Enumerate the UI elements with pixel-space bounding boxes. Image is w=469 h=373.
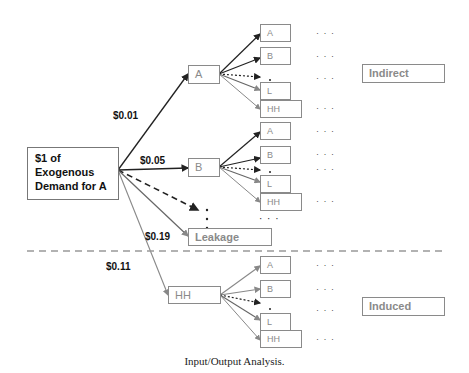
amount-hh: $0.11: [106, 261, 130, 272]
induced-label: Induced: [362, 297, 445, 316]
tier2-hh-box-a: A: [260, 256, 291, 274]
tier1-box-hh: HH: [168, 286, 221, 304]
leakage-box: Leakage: [188, 228, 272, 246]
indirect-label: Indirect: [362, 64, 445, 83]
tier2-b-box-l: L: [260, 175, 291, 193]
source-box: $1 of Exogenous Demand for A: [27, 147, 119, 200]
continuation-dots: · · ·: [316, 284, 335, 294]
tier2-b-box-b: B: [260, 146, 291, 164]
source-line-1: $1 of: [35, 151, 118, 165]
tier2-a-box-a: A: [260, 24, 291, 42]
tier2-a-box-b: B: [260, 47, 291, 65]
continuation-dots: · · ·: [316, 28, 335, 38]
source-line-2: Exogenous: [35, 165, 118, 179]
tier2-hh-box-l: L: [260, 313, 291, 331]
continuation-dots: · · ·: [316, 305, 335, 315]
continuation-dots: · · ·: [316, 164, 335, 174]
source-line-3: Demand for A: [35, 179, 118, 193]
continuation-dots: · · ·: [316, 103, 335, 113]
tier2-hh-box-b: B: [260, 280, 291, 298]
tier2-b-box-a: A: [260, 122, 291, 140]
tier2-hh-box-hh: HH: [260, 330, 302, 348]
amount-a: $0.01: [113, 110, 138, 121]
continuation-dots: · · ·: [316, 73, 335, 83]
continuation-dots: · · ·: [259, 213, 280, 224]
continuation-dots: · · ·: [316, 149, 335, 159]
figure-caption: Input/Output Analysis.: [0, 355, 469, 367]
continuation-dots: · · ·: [316, 196, 335, 206]
amount-b: $0.05: [140, 155, 165, 166]
continuation-dots: · · ·: [316, 51, 335, 61]
tier2-a-box-hh: HH: [260, 100, 302, 118]
tier2-b-box-hh: HH: [260, 193, 302, 211]
continuation-dots: · · ·: [316, 126, 335, 136]
tier1-box-a: A: [188, 65, 220, 84]
continuation-dots: · · ·: [316, 334, 335, 344]
continuation-dots: · · ·: [316, 260, 335, 270]
tier1-box-b: B: [188, 158, 220, 177]
amount-leakage: $0.19: [145, 231, 170, 242]
tier2-a-box-l: L: [260, 82, 291, 100]
